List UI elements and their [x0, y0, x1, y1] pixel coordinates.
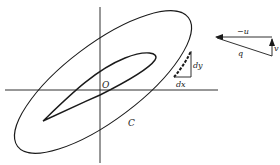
contour-label: C	[128, 118, 135, 128]
velocity-triangle	[216, 37, 272, 56]
dx-label: dx	[176, 80, 186, 89]
q-vector	[217, 38, 272, 56]
origin-label: O	[102, 80, 110, 90]
differential-triangle	[174, 51, 191, 77]
v-label: v	[274, 44, 279, 53]
neg-u-label: −u	[237, 27, 249, 36]
dy-label: dy	[193, 61, 203, 70]
q-label: q	[238, 49, 243, 58]
diagram-canvas: O C dy dx −u v q	[0, 0, 280, 165]
airfoil	[43, 53, 156, 121]
